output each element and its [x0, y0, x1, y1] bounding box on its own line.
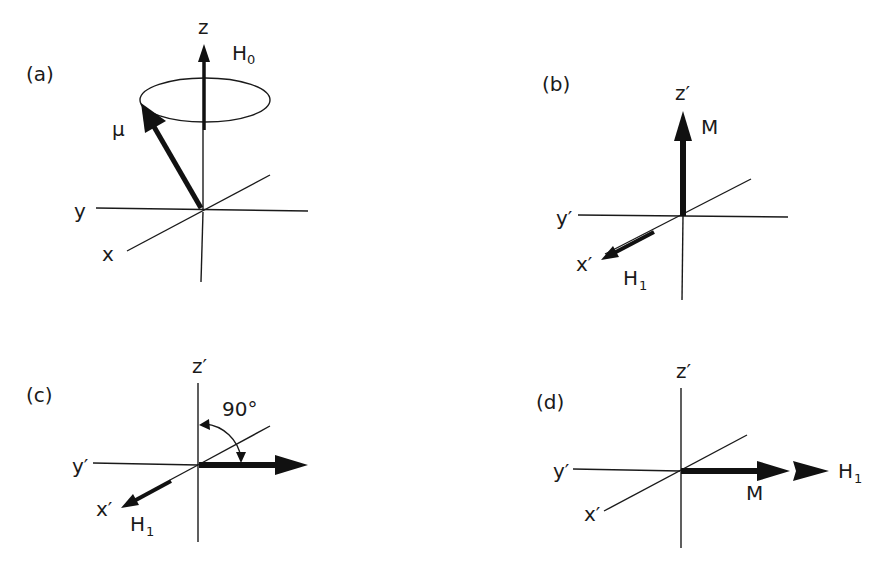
h1-label: H [130, 512, 145, 536]
angle-label: 90° [222, 397, 257, 421]
m-arrowhead [275, 455, 308, 475]
nmr-diagram: (a) z H 0 μ y x (b) z′ M [0, 0, 883, 562]
x-prime-axis-upper-line [198, 426, 270, 465]
h0-arrowhead [198, 44, 210, 62]
panel-d: (d) z′ y′ x′ M H 1 [536, 359, 862, 548]
panel-a-label: (a) [26, 62, 54, 86]
h1-subscript: 1 [639, 278, 647, 293]
x-prime-label: x′ [96, 497, 113, 521]
y-prime-axis-line [573, 469, 680, 471]
h1-arrowhead [121, 494, 139, 508]
m-label: M [701, 115, 718, 139]
x-axis-line [127, 175, 270, 251]
y-axis-label: y [74, 199, 86, 223]
m-label: M [746, 481, 763, 505]
x-prime-label: x′ [584, 502, 601, 526]
h1-label: H [838, 459, 853, 483]
panel-c: (c) z′ 90° y′ x′ H 1 [26, 354, 308, 542]
panel-c-label: (c) [26, 383, 53, 407]
x-prime-axis-lower-line [170, 465, 198, 480]
z-prime-label: z′ [675, 81, 690, 105]
h1-arrowhead [793, 461, 829, 481]
z-axis-lower-line [201, 212, 203, 282]
h1-vector-shaft [134, 481, 171, 501]
arc-arrowhead-top [199, 419, 210, 430]
rotation-arc [205, 424, 241, 458]
x-prime-label: x′ [576, 252, 593, 276]
z-prime-label: z′ [676, 359, 691, 383]
y-prime-label: y′ [556, 206, 573, 230]
panel-a: (a) z H 0 μ y x [26, 15, 308, 282]
mu-label: μ [112, 117, 125, 141]
panel-b: (b) z′ M y′ x′ H 1 [542, 72, 788, 300]
arc-arrowhead-bottom [236, 452, 246, 463]
y-prime-label: y′ [553, 459, 570, 483]
h0-subscript: 0 [247, 52, 255, 67]
z-axis-label: z [198, 15, 209, 39]
y-prime-label: y′ [72, 454, 89, 478]
h1-label: H [623, 266, 638, 290]
panel-d-label: (d) [536, 390, 564, 414]
h1-subscript: 1 [854, 471, 862, 486]
mu-vector-shaft [153, 125, 201, 208]
m-arrowhead [757, 461, 790, 481]
z-prime-axis-lower-line [682, 216, 683, 300]
panel-b-label: (b) [542, 72, 570, 96]
h1-vector-shaft [614, 232, 654, 253]
x-axis-label: x [102, 242, 114, 266]
h0-label: H [232, 41, 247, 65]
m-arrowhead [674, 111, 692, 141]
y-prime-axis-line [93, 463, 198, 465]
h1-subscript: 1 [146, 524, 154, 539]
z-prime-label: z′ [192, 354, 207, 378]
